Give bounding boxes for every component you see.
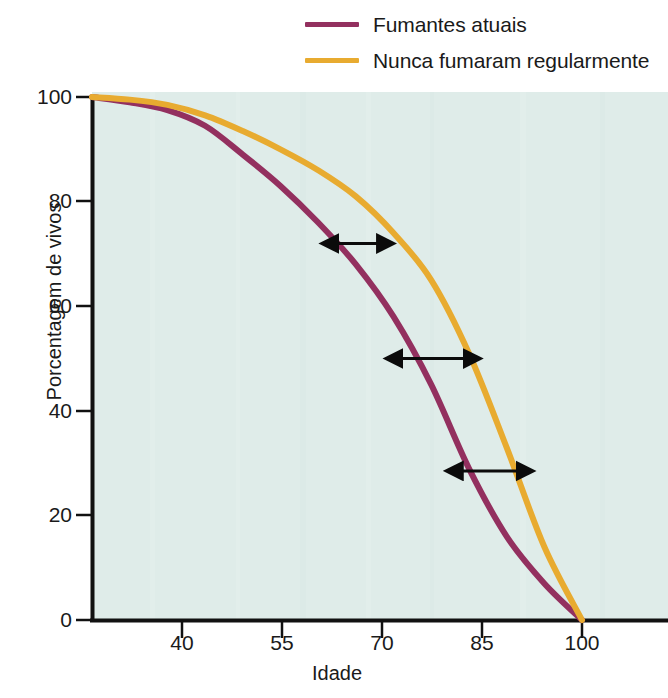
x-tick-label-40: 40 bbox=[147, 632, 217, 653]
x-axis-title: Idade bbox=[92, 662, 582, 685]
survival-curve-figure: Fumantes atuais Nunca fumaram regularmen… bbox=[0, 0, 668, 698]
x-tick-label-85: 85 bbox=[447, 632, 517, 653]
x-tick-label-70: 70 bbox=[347, 632, 417, 653]
x-tick-label-100: 100 bbox=[547, 632, 617, 653]
x-tick-label-55: 55 bbox=[247, 632, 317, 653]
y-axis-title: Porcentagem de vivos bbox=[43, 152, 66, 452]
x-tick-label-layer: 40 55 70 85 100 bbox=[0, 0, 668, 698]
